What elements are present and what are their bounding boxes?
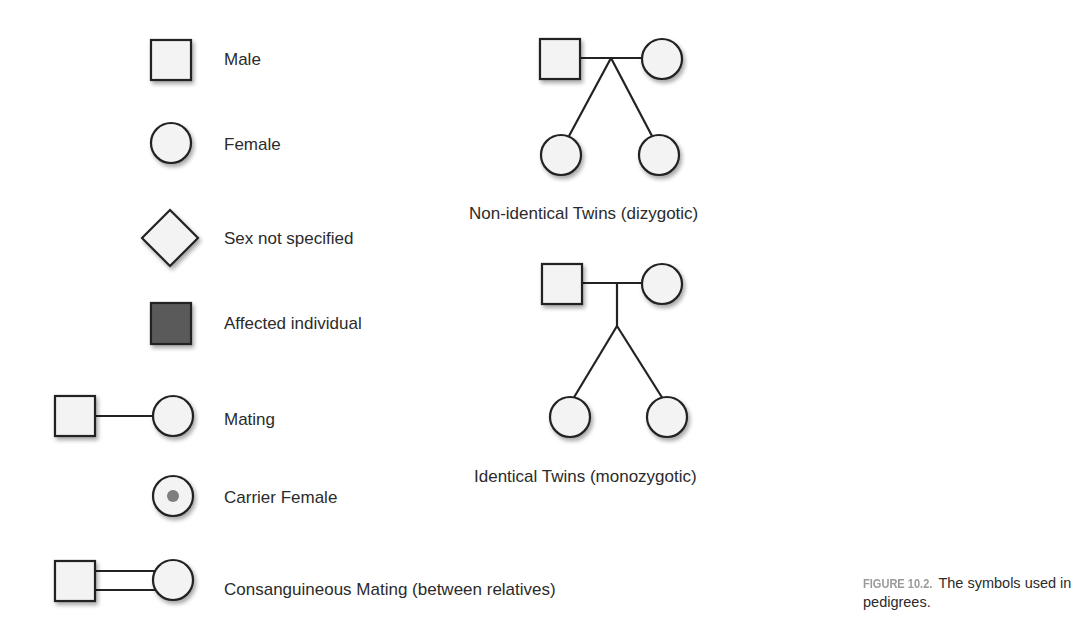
pedigree-diagram	[0, 0, 1082, 640]
carrier-female-icon	[153, 476, 193, 516]
affected-square-icon	[151, 303, 191, 344]
legend-label-consanguineous-mating: Consanguineous Mating (between relatives…	[224, 581, 556, 598]
figure-number: FIGURE 10.2.	[863, 574, 932, 593]
monozygotic-twins-diagram	[542, 264, 687, 437]
legend-label-sex-not-specified: Sex not specified	[224, 230, 353, 247]
monozygotic-twins-label: Identical Twins (monozygotic)	[474, 468, 697, 485]
dizygotic-twins-diagram	[540, 39, 682, 175]
legend-label-male: Male	[224, 51, 261, 68]
dizygotic-twins-label: Non-identical Twins (dizygotic)	[469, 205, 698, 222]
legend-label-affected: Affected individual	[224, 315, 362, 332]
legend-label-female: Female	[224, 136, 281, 153]
legend-label-carrier-female: Carrier Female	[224, 489, 337, 506]
male-square-icon	[151, 40, 191, 80]
sex-unspecified-diamond-icon	[142, 210, 198, 266]
mating-icon	[55, 396, 193, 436]
legend-label-mating: Mating	[224, 411, 275, 428]
figure-caption: FIGURE 10.2. The symbols used in pedigre…	[863, 574, 1073, 612]
female-circle-icon	[151, 123, 191, 163]
consanguineous-mating-icon	[55, 560, 193, 601]
